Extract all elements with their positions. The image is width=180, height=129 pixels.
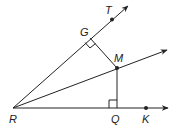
label-K: K	[142, 113, 150, 125]
point-M	[115, 66, 119, 70]
label-R: R	[9, 113, 17, 125]
point-T	[110, 18, 114, 22]
label-Q: Q	[111, 113, 120, 125]
ray-RT	[13, 6, 128, 108]
point-K	[144, 106, 148, 110]
ray-RM	[13, 50, 167, 108]
right-angle-mark-Q	[109, 100, 117, 108]
segment-MG	[90, 38, 117, 68]
geometry-diagram: T G M R Q K	[0, 0, 180, 129]
label-M: M	[114, 52, 124, 64]
label-T: T	[105, 4, 113, 16]
label-G: G	[80, 26, 89, 38]
